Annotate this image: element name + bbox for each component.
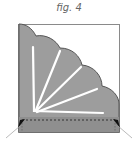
fan-fold-diagram	[0, 0, 138, 149]
pointer-line-right	[118, 126, 132, 138]
pointer-line-left	[6, 126, 20, 138]
bottom-strip	[19, 117, 119, 132]
